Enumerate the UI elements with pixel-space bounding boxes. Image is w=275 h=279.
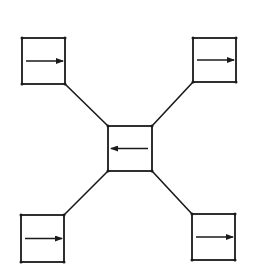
- corner-dot: [192, 81, 195, 84]
- corner-dot: [151, 125, 154, 128]
- corner-dot: [20, 214, 23, 217]
- corner-dot: [191, 259, 194, 262]
- connector-line-center-to-bottom-right: [152, 171, 192, 214]
- corner-dot: [107, 125, 110, 128]
- node-box-top-right: [192, 37, 238, 84]
- node-box-top-left: [21, 37, 67, 86]
- corner-dot: [107, 170, 110, 173]
- corner-dot: [234, 213, 237, 216]
- corner-dot: [64, 37, 67, 40]
- corner-dot: [63, 261, 66, 264]
- connector-line-top-left-to-center: [65, 84, 108, 126]
- corner-dot: [235, 37, 238, 40]
- connector-line-top-right-to-center: [152, 82, 193, 126]
- node-box-bottom-right: [191, 213, 237, 262]
- corner-dot: [63, 214, 66, 217]
- diagram-svg: [0, 0, 275, 279]
- corner-dot: [20, 261, 23, 264]
- node-box-center: [107, 125, 154, 173]
- corner-dot: [64, 83, 67, 86]
- node-box-bottom-left: [20, 214, 66, 264]
- corner-dot: [21, 37, 24, 40]
- corner-dot: [234, 259, 237, 262]
- corner-dot: [192, 37, 195, 40]
- corner-dot: [235, 81, 238, 84]
- connector-line-center-to-bottom-left: [64, 171, 108, 215]
- corner-dot: [21, 83, 24, 86]
- node-boxes: [20, 37, 238, 264]
- corner-dot: [151, 170, 154, 173]
- corner-dot: [191, 213, 194, 216]
- star-diagram: [0, 0, 275, 279]
